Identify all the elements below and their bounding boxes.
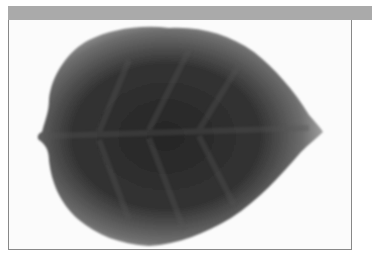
title-bar	[8, 6, 372, 20]
leaf-image	[9, 20, 353, 250]
image-frame	[8, 20, 352, 250]
